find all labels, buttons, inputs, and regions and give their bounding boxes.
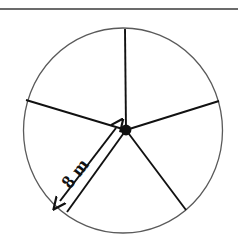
center-point [121,125,132,136]
spoke-up [125,29,126,130]
spoke-upper-left [26,100,126,130]
spoke-upper-right [126,101,219,130]
circle-sector-figure: 8 m [0,0,238,239]
spoke-lower-right [126,130,186,210]
radius-label: 8 m [57,154,93,192]
figure-canvas: 8 m [0,0,238,239]
